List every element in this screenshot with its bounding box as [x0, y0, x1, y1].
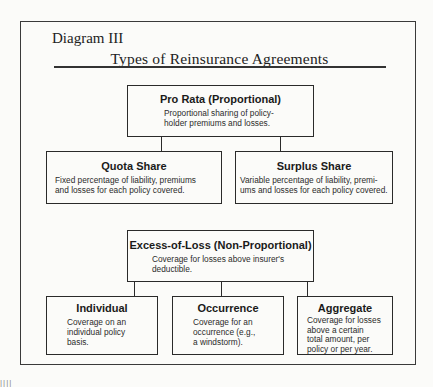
- aggregate-desc: Coverage for losses above a certain tota…: [307, 316, 392, 354]
- diagram-label: Diagram III: [52, 30, 123, 47]
- individual-title: Individual: [47, 302, 157, 314]
- pro-rata-box: Pro Rata (Proportional) Proportional sha…: [127, 85, 314, 137]
- occurrence-desc: Coverage for an occurrence (e.g., a wind…: [193, 317, 283, 347]
- individual-box: Individual Coverage on an individual pol…: [46, 296, 158, 355]
- quota-share-box: Quota Share Fixed percentage of liabilit…: [46, 151, 222, 204]
- aggregate-box: Aggregate Coverage for losses above a ce…: [297, 296, 393, 355]
- individual-desc: Coverage on an individual policy basis.: [67, 317, 157, 347]
- excess-of-loss-box: Excess-of-Loss (Non-Proportional) Covera…: [127, 230, 314, 282]
- surplus-share-box: Surplus Share Variable percentage of lia…: [235, 151, 393, 204]
- connector: [161, 137, 162, 152]
- connector: [307, 282, 308, 297]
- excess-of-loss-title: Excess-of-Loss (Non-Proportional): [128, 239, 313, 251]
- occurrence-title: Occurrence: [173, 302, 283, 314]
- occurrence-box: Occurrence Coverage for an occurrence (e…: [172, 296, 284, 355]
- surplus-share-desc: Variable percentage of liability, premi-…: [240, 175, 392, 195]
- connector: [221, 282, 222, 297]
- connector: [134, 282, 135, 297]
- surplus-share-title: Surplus Share: [236, 160, 392, 172]
- pro-rata-desc: Proportional sharing of policy- holder p…: [164, 108, 313, 128]
- connector: [280, 137, 281, 152]
- pro-rata-title: Pro Rata (Proportional): [128, 93, 313, 105]
- margin-mark: ||||: [0, 378, 12, 387]
- quota-share-title: Quota Share: [47, 160, 221, 172]
- title-rule: [54, 66, 386, 68]
- aggregate-title: Aggregate: [298, 302, 392, 314]
- excess-of-loss-desc: Coverage for losses above insurer's dedu…: [152, 254, 313, 274]
- quota-share-desc: Fixed percentage of liability, premiums …: [55, 175, 221, 195]
